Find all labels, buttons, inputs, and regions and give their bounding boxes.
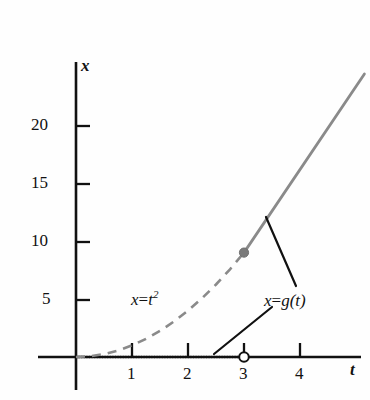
piecewise-label-rhs: g(t): [281, 291, 306, 310]
y-tick-label-10: 10: [31, 231, 48, 251]
g-linear-branch: [244, 74, 364, 253]
piecewise-label: x=g(t): [264, 291, 306, 311]
parabola-label-exponent: 2: [153, 288, 159, 300]
graph-plot-area: [0, 0, 370, 400]
x-tick-label-3: 3: [239, 364, 248, 384]
x-tick-label-1: 1: [127, 364, 136, 384]
piecewise-label-op: =: [272, 291, 282, 310]
x-tick-label-2: 2: [183, 364, 192, 384]
parabola-label-op: =: [139, 290, 149, 309]
y-tick-label-5: 5: [42, 289, 51, 309]
y-tick-label-20: 20: [31, 115, 48, 135]
leader-line-upper: [266, 217, 296, 286]
figure-canvas: 20 15 10 5 1 2 3 4 x t x=t2 x=g(t): [0, 0, 370, 400]
parabola-label-lhs: x: [131, 290, 139, 309]
closed-point-marker: [239, 248, 248, 257]
y-tick-label-15: 15: [31, 173, 48, 193]
piecewise-label-lhs: x: [264, 291, 272, 310]
x-axis-label: t: [350, 360, 355, 380]
y-axis-label: x: [81, 56, 90, 76]
x-tick-label-4: 4: [295, 364, 304, 384]
parabola-curve: [76, 253, 244, 357]
open-point-marker: [239, 352, 249, 362]
parabola-label: x=t2: [131, 288, 158, 310]
